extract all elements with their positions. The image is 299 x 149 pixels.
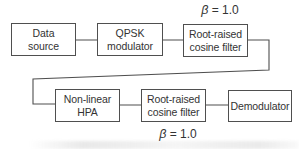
block-nonlinear-hpa: Non-linear HPA: [55, 89, 120, 122]
beta-symbol: β: [201, 3, 208, 17]
block-rrc-filter-rx: Root-raised cosine filter: [141, 89, 206, 122]
block-label-line: cosine filter: [190, 41, 242, 54]
block-label-line: source: [28, 40, 59, 53]
beta-label-bottom: β = 1.0: [138, 127, 218, 141]
block-label-line: Non-linear: [64, 93, 111, 106]
block-label-line: Root-raised: [147, 93, 200, 106]
block-label-line: Root-raised: [189, 28, 242, 41]
beta-value: = 1.0: [170, 127, 197, 141]
beta-value: = 1.0: [212, 3, 239, 17]
block-data-source: Data source: [11, 23, 76, 56]
beta-symbol: β: [159, 127, 166, 141]
block-qpsk-modulator: QPSK modulator: [97, 23, 163, 56]
beta-label-top: β = 1.0: [180, 3, 260, 17]
block-diagram: β = 1.0 Data source QPSK modulator Root-…: [0, 0, 299, 149]
block-demodulator: Demodulator: [228, 90, 292, 122]
block-label-line: modulator: [107, 40, 153, 53]
block-rrc-filter-tx: Root-raised cosine filter: [183, 24, 248, 57]
block-label-line: cosine filter: [148, 106, 200, 119]
block-label-line: Demodulator: [230, 100, 289, 113]
block-label-line: HPA: [77, 106, 98, 119]
block-label-line: QPSK: [116, 27, 145, 40]
block-label-line: Data: [33, 27, 55, 40]
